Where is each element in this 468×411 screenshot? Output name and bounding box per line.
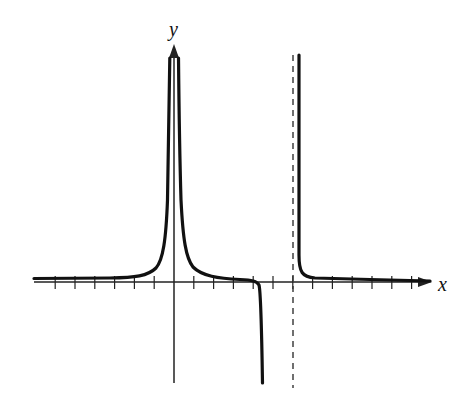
x-axis-label: x: [437, 273, 447, 295]
curve-middle-branch: [179, 58, 263, 383]
y-axis-label: y: [167, 18, 178, 41]
y-axis-arrow-icon: [169, 44, 179, 58]
curve-left-branch: [34, 58, 170, 279]
curve-right-branch: [299, 55, 430, 281]
function-graph: y x: [0, 0, 468, 411]
